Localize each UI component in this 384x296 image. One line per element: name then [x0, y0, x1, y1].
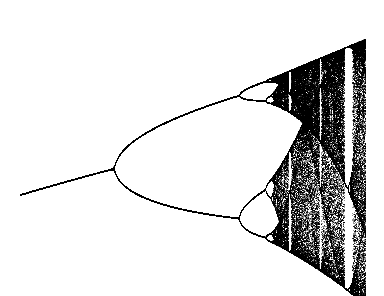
bifurcation-plot-canvas — [0, 0, 384, 296]
bifurcation-diagram — [0, 0, 384, 296]
